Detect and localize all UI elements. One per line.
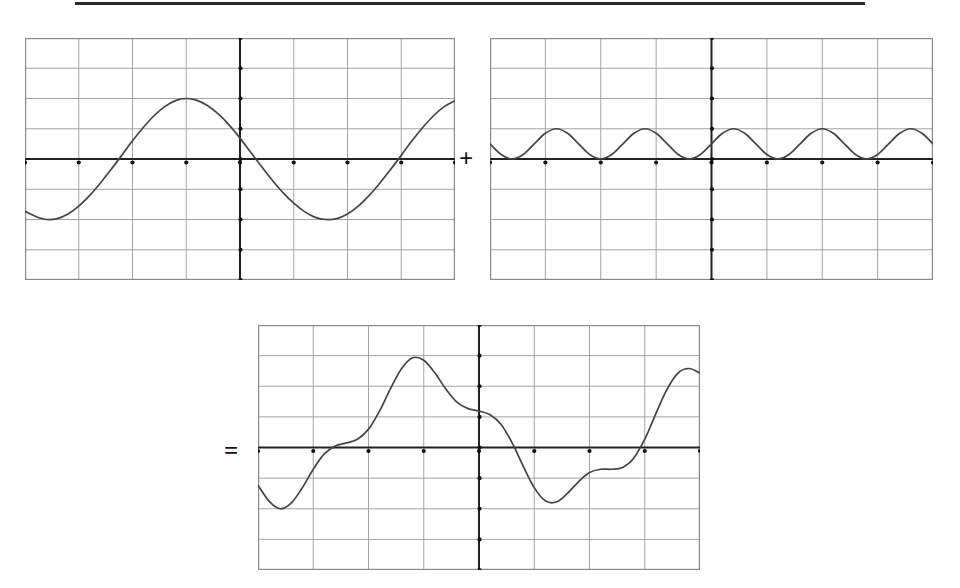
y-axis-tick: [710, 217, 714, 221]
x-axis-tick: [311, 449, 315, 453]
y-axis-tick: [477, 354, 481, 358]
x-axis-tick: [77, 160, 81, 164]
x-axis-tick: [876, 160, 880, 164]
x-axis-tick: [820, 160, 824, 164]
y-axis-tick: [710, 96, 714, 100]
y-axis-tick: [238, 248, 242, 252]
top-horizontal-rule: [75, 2, 865, 5]
y-axis-tick: [710, 187, 714, 191]
x-axis-tick: [25, 160, 27, 164]
y-axis-tick: [477, 415, 481, 419]
x-axis-tick: [543, 160, 547, 164]
y-axis-tick: [477, 537, 481, 541]
y-axis-tick: [238, 66, 242, 70]
y-axis-tick: [710, 248, 714, 252]
x-axis-tick: [587, 449, 591, 453]
equals-operator: =: [224, 438, 238, 463]
y-axis-tick: [477, 476, 481, 480]
x-axis-tick: [292, 160, 296, 164]
y-axis-tick: [238, 157, 242, 161]
x-axis-tick: [184, 160, 188, 164]
y-axis-tick: [238, 96, 242, 100]
y-axis-tick: [477, 507, 481, 511]
first-wave-graph: [25, 38, 455, 280]
x-axis-tick: [366, 449, 370, 453]
x-axis-tick: [258, 449, 260, 453]
x-axis-tick: [453, 160, 455, 164]
x-axis-tick: [490, 160, 492, 164]
plus-operator: +: [459, 146, 473, 171]
y-axis-tick: [238, 127, 242, 131]
x-axis-tick: [345, 160, 349, 164]
y-axis-tick: [238, 187, 242, 191]
figure-page: + =: [0, 0, 960, 588]
y-axis-tick: [710, 66, 714, 70]
x-axis-tick: [765, 160, 769, 164]
x-axis-tick: [130, 160, 134, 164]
sum-wave-graph: [258, 325, 700, 570]
y-axis-tick: [477, 384, 481, 388]
y-axis-tick: [710, 127, 714, 131]
x-axis-tick: [643, 449, 647, 453]
x-axis-tick: [422, 449, 426, 453]
x-axis-tick: [698, 449, 700, 453]
x-axis-tick: [654, 160, 658, 164]
y-axis-tick: [710, 157, 714, 161]
second-wave-graph: [490, 38, 933, 280]
x-axis-tick: [399, 160, 403, 164]
x-axis-tick: [532, 449, 536, 453]
x-axis-tick: [931, 160, 933, 164]
y-axis-tick: [477, 445, 481, 449]
y-axis-tick: [238, 217, 242, 221]
x-axis-tick: [599, 160, 603, 164]
